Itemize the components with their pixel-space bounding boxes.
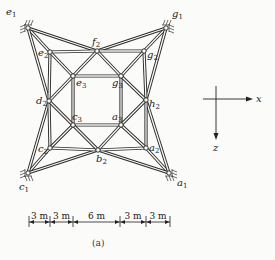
dimension-arrow-icon — [141, 220, 146, 224]
node-f2 — [95, 49, 99, 53]
truss-member — [49, 101, 73, 125]
node-label-e1: e1 — [6, 6, 16, 19]
dimension-line: 3 m3 m6 m3 m3 m — [29, 211, 170, 227]
dimension-label: 3 m — [31, 211, 49, 221]
truss-member — [97, 51, 121, 76]
node-e2 — [48, 50, 52, 54]
truss-member — [50, 148, 98, 150]
z-axis-label: z — [212, 142, 219, 153]
node-h2 — [144, 98, 148, 102]
node-label-h2: h2 — [149, 98, 160, 111]
node-c2 — [48, 146, 52, 150]
node-label-d2: d2 — [36, 95, 47, 108]
dimension-label: 3 m — [149, 211, 167, 221]
node-label-e3: e3 — [76, 77, 86, 90]
truss-member — [49, 52, 50, 101]
truss-member — [121, 76, 146, 100]
x-axis-label: x — [256, 93, 262, 104]
x-axis-arrow-icon — [246, 97, 253, 102]
node-label-c2: c2 — [38, 143, 48, 156]
node-label-g2: g2 — [147, 49, 158, 62]
truss-member — [50, 51, 97, 52]
truss-member — [73, 125, 98, 150]
space-truss-diagram: e1g1c1a1e2f2g2d2h2c2b2a2e3g3c3a3 x z 3 m… — [0, 0, 275, 260]
node-d2 — [47, 99, 51, 103]
dimension-label: 3 m — [53, 211, 71, 221]
node-g3 — [119, 74, 123, 78]
node-c3 — [71, 123, 75, 127]
dimension-label: 3 m — [124, 211, 142, 221]
truss-member — [49, 101, 50, 148]
truss-member — [121, 100, 146, 125]
node-label-g1: g1 — [172, 8, 183, 21]
node-g2 — [142, 49, 146, 53]
truss-member — [98, 148, 146, 150]
truss-member — [98, 125, 121, 150]
node-b2 — [96, 148, 100, 152]
truss-member — [50, 125, 73, 148]
node-label-a1: a1 — [177, 177, 187, 190]
truss-member — [50, 52, 73, 76]
dimension-arrow-icon — [74, 220, 79, 224]
node-c1 — [26, 171, 30, 175]
node-a1 — [167, 171, 171, 175]
truss-member — [121, 51, 144, 76]
coordinate-axes: x z — [203, 86, 262, 153]
node-label-c1: c1 — [19, 181, 29, 194]
figure-caption: (a) — [92, 238, 104, 248]
node-e3 — [71, 74, 75, 78]
truss-member — [121, 125, 146, 148]
truss-member — [73, 51, 97, 76]
truss-member — [49, 76, 73, 101]
node-g1 — [164, 26, 168, 30]
dimension-arrow-icon — [115, 220, 120, 224]
node-label-f2: f2 — [91, 36, 100, 49]
truss-member — [144, 51, 146, 100]
dimension-label: 6 m — [88, 211, 106, 221]
z-axis-arrow-icon — [214, 133, 219, 140]
node-label-b2: b2 — [96, 153, 107, 166]
node-e1 — [26, 26, 30, 30]
node-a2 — [144, 146, 148, 150]
